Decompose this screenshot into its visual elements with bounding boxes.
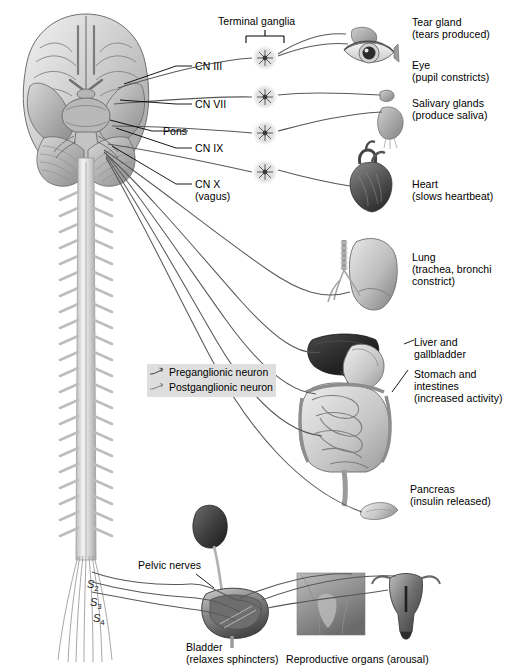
pancreas-illustration bbox=[360, 503, 398, 520]
legend-label-postganglionic: Postganglionic neuron bbox=[169, 381, 273, 393]
eye-effect: (pupil constricts) bbox=[412, 71, 489, 83]
heart-effect: (slows heartbeat) bbox=[412, 190, 493, 202]
preganglionic-neuron-glyph bbox=[150, 367, 167, 377]
bladder-label: Bladder bbox=[186, 641, 223, 653]
postganglionic-neuron-glyph bbox=[150, 382, 167, 392]
liver-label-cont: gallbladder bbox=[414, 348, 466, 360]
terminal-ganglia-nodes bbox=[252, 45, 278, 185]
heart-illustration bbox=[350, 141, 392, 212]
cn7-label: CN VII bbox=[195, 98, 226, 110]
ganglion-node bbox=[252, 45, 278, 71]
uterus-illustration bbox=[372, 574, 440, 640]
pancreas-effect: (insulin released) bbox=[410, 495, 491, 507]
terminal-ganglia-bracket bbox=[246, 30, 284, 43]
lung-effect: (trachea, bronchi bbox=[412, 263, 492, 275]
lung-illustration bbox=[328, 239, 397, 310]
tear-gland-label: Tear gland bbox=[412, 16, 462, 28]
cn3-label: CN III bbox=[195, 60, 222, 72]
parasympathetic-diagram: Terminal ganglia CN III CN VII Pons CN I… bbox=[0, 0, 518, 672]
sacral-label-s4: S4 bbox=[93, 612, 105, 627]
ganglion-node bbox=[252, 84, 278, 110]
stomach-label-cont: intestines bbox=[414, 380, 459, 392]
legend: Preganglionic neuron Postganglionic neur… bbox=[147, 364, 276, 397]
reproductive-organs-label: Reproductive organs (arousal) bbox=[286, 653, 429, 665]
tear-gland-effect: (tears produced) bbox=[412, 28, 490, 40]
lung-label: Lung bbox=[412, 251, 436, 263]
spinal-cord-illustration bbox=[58, 158, 112, 662]
salivary-glands-illustration bbox=[378, 90, 403, 149]
sacral-label-s2: S2 bbox=[87, 578, 99, 593]
male-reproductive-photo bbox=[297, 573, 365, 635]
pelvic-nerves-label: Pelvic nerves bbox=[138, 559, 201, 571]
lung-effect-cont: constrict) bbox=[412, 275, 455, 287]
ganglion-node bbox=[252, 120, 278, 146]
legend-label-preganglionic: Preganglionic neuron bbox=[169, 366, 268, 378]
cn9-label: CN IX bbox=[195, 142, 223, 154]
heart-label: Heart bbox=[412, 178, 438, 190]
intestines-illustration bbox=[299, 383, 390, 506]
cn10-label: CN X bbox=[195, 178, 220, 190]
eye-and-tear-gland-illustration bbox=[344, 27, 399, 63]
terminal-ganglia-label: Terminal ganglia bbox=[218, 15, 295, 27]
kidney-illustration bbox=[193, 505, 227, 592]
salivary-glands-effect: (produce saliva) bbox=[412, 109, 488, 121]
liver-label: Liver and bbox=[414, 336, 458, 348]
bladder-effect: (relaxes sphincters) bbox=[186, 653, 279, 665]
stomach-label: Stomach and bbox=[414, 368, 476, 380]
eye-label: Eye bbox=[412, 59, 430, 71]
pons-label: Pons bbox=[163, 125, 187, 137]
ganglion-node bbox=[252, 159, 278, 185]
salivary-glands-label: Salivary glands bbox=[412, 97, 484, 109]
stomach-effect: (increased activity) bbox=[414, 392, 503, 404]
sacral-label-s3: S3 bbox=[90, 596, 102, 611]
bladder-illustration bbox=[202, 588, 269, 648]
pancreas-label: Pancreas bbox=[410, 483, 455, 495]
cn10-vagus-sublabel: (vagus) bbox=[195, 190, 230, 202]
